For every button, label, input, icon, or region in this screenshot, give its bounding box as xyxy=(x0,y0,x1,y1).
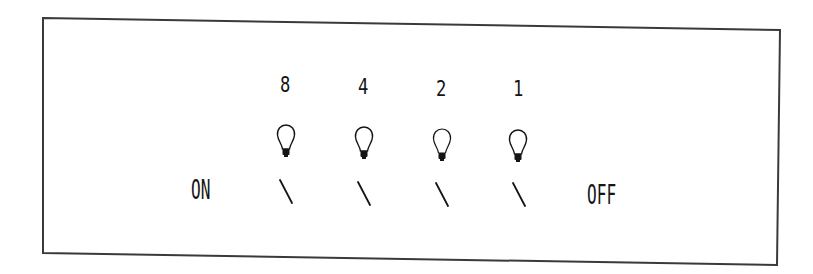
switch-lever-icon[interactable] xyxy=(511,182,527,208)
lightbulb-icon xyxy=(431,127,453,163)
panel-frame xyxy=(0,0,813,274)
lightbulb-icon xyxy=(353,125,375,161)
on-label: ON xyxy=(191,177,210,203)
lightbulb-icon xyxy=(507,128,529,164)
place-value-1: 1 xyxy=(513,78,523,100)
switch-lever-icon[interactable] xyxy=(434,182,450,208)
switch-lever-icon[interactable] xyxy=(278,179,294,205)
off-label: OFF xyxy=(587,182,616,208)
place-value-2: 2 xyxy=(436,78,446,100)
place-value-8: 8 xyxy=(280,74,290,96)
switch-lever-icon[interactable] xyxy=(356,181,372,207)
lightbulb-icon xyxy=(275,123,297,159)
place-value-4: 4 xyxy=(358,76,368,98)
